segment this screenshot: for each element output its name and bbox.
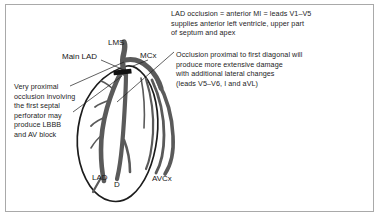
label-lms: LMS	[108, 38, 124, 47]
label-mcx: MCx	[140, 51, 156, 60]
note-very-proximal-occlusion: Very proximal occlusion involving the fi…	[14, 82, 86, 140]
label-main-lad: Main LAD	[62, 52, 97, 61]
coronary-artery-diagram: LAD occlusion = anterior MI = leads V1–V…	[0, 0, 381, 219]
label-avcx: AVCx	[152, 174, 172, 183]
label-lad: LAD	[92, 173, 108, 182]
note-proximal-to-first-diagonal: Occlusion proximal to first diagonal wil…	[176, 50, 374, 88]
note-lad-occlusion-territory: LAD occlusion = anterior MI = leads V1–V…	[171, 9, 371, 38]
label-diagonal: D	[114, 180, 120, 189]
